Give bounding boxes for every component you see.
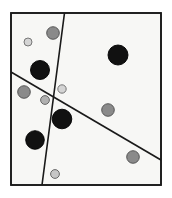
- point-black-upperleft: [31, 61, 50, 80]
- point-black-lowerleft: [26, 131, 45, 150]
- point-black-upperright: [108, 45, 128, 65]
- point-gray-left: [18, 86, 31, 99]
- point-black-center: [52, 109, 72, 129]
- point-gray-lowerright: [127, 151, 140, 164]
- point-gray-top: [47, 27, 60, 40]
- point-light-center: [58, 85, 66, 93]
- scatter-figure: [0, 0, 172, 198]
- point-light-bottom: [51, 170, 60, 179]
- point-light-topleft: [24, 38, 32, 46]
- point-gray-right: [102, 104, 115, 117]
- figure-canvas: [0, 0, 172, 198]
- point-gray-small-mid: [41, 96, 50, 105]
